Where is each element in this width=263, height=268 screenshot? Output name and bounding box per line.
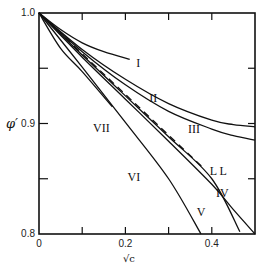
series-labels: IIIIIIL LIVVVIVII — [93, 56, 229, 219]
series-line-vi — [39, 13, 201, 234]
series-label-i: I — [136, 56, 140, 70]
y-tick-label: 0.8 — [21, 228, 35, 239]
x-tick-label: 0 — [36, 238, 42, 249]
x-tick-label: 0.4 — [205, 238, 219, 249]
series-label-vii: VII — [93, 121, 110, 135]
axis-ticks: 00.20.40.80.91.0 — [21, 7, 255, 249]
x-tick-label: 0.2 — [118, 238, 132, 249]
y-tick-label: 0.9 — [21, 118, 35, 129]
series-label-ll: L L — [210, 164, 227, 178]
y-axis-title: φ′ — [6, 116, 18, 131]
series-label-iii: III — [188, 122, 200, 136]
x-axis-title: √c — [123, 253, 135, 264]
chart-figure: 00.20.40.80.91.0 IIIIIIL LIVVVIVII √c φ′ — [0, 0, 263, 268]
series-line-ii — [39, 13, 255, 127]
series-line-iv — [39, 13, 240, 232]
series-label-v: V — [197, 205, 206, 219]
y-tick-label: 1.0 — [21, 7, 35, 18]
series-label-ii: II — [149, 91, 157, 105]
series-label-iv: IV — [216, 186, 229, 200]
series-label-vi: VI — [128, 170, 141, 184]
data-series — [39, 13, 255, 234]
line-chart: 00.20.40.80.91.0 IIIIIIL LIVVVIVII √c φ′ — [0, 0, 263, 268]
